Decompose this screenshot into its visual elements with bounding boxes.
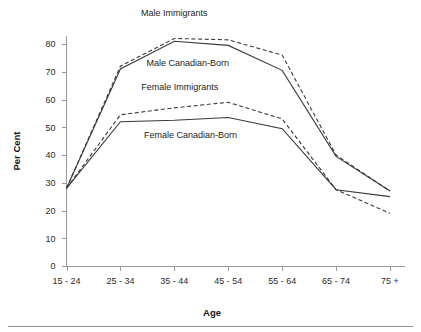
series-label-female-immigrants: Female Immigrants xyxy=(141,82,219,92)
y-tick-label: 80 xyxy=(45,39,55,49)
y-tick-label: 40 xyxy=(45,150,55,160)
series-label-female-canadian-born: Female Canadian-Born xyxy=(144,130,237,140)
y-tick-label: 70 xyxy=(45,67,55,77)
y-tick-label: 0 xyxy=(50,261,55,271)
x-tick-label: 75 + xyxy=(381,276,399,286)
x-tick-label: 65 - 74 xyxy=(322,276,350,286)
x-tick-label: 35 - 44 xyxy=(160,276,188,286)
series-label-male-canadian-born: Male Canadian-Born xyxy=(147,58,230,68)
x-axis-ticks: 15 - 2425 - 3435 - 4445 - 5455 - 6465 - … xyxy=(52,266,398,286)
y-axis-ticks: 01020304050607080 xyxy=(45,39,66,271)
series-line-female-immigrants xyxy=(67,102,391,213)
x-tick-label: 25 - 34 xyxy=(106,276,134,286)
x-tick-label: 15 - 24 xyxy=(52,276,80,286)
y-tick-label: 10 xyxy=(45,234,55,244)
chart-container: 01020304050607080 15 - 2425 - 3435 - 444… xyxy=(0,0,421,332)
y-tick-label: 30 xyxy=(45,178,55,188)
y-tick-label: 50 xyxy=(45,123,55,133)
y-axis-title: Per Cent xyxy=(11,131,22,171)
x-tick-label: 55 - 64 xyxy=(268,276,296,286)
line-chart: 01020304050607080 15 - 2425 - 3435 - 444… xyxy=(0,0,421,332)
series-label-male-immigrants: Male Immigrants xyxy=(141,8,208,18)
x-tick-label: 45 - 54 xyxy=(214,276,242,286)
x-axis-title: Age xyxy=(203,307,221,318)
y-tick-label: 60 xyxy=(45,95,55,105)
y-tick-label: 20 xyxy=(45,206,55,216)
